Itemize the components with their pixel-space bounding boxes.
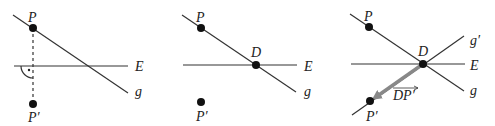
point-p-prime	[366, 97, 374, 105]
point-p	[29, 24, 37, 32]
label-g: g	[470, 83, 477, 98]
right-angle-arc	[21, 66, 33, 78]
label-p: P	[363, 9, 373, 24]
label-e: E	[469, 58, 479, 73]
point-p	[197, 24, 205, 32]
point-d	[419, 60, 427, 68]
right-angle-dot	[28, 69, 30, 71]
label-e: E	[303, 59, 313, 74]
point-d	[252, 61, 260, 69]
label-vector-dp-prime: DP′	[392, 88, 416, 103]
label-g-prime: g′	[470, 33, 481, 48]
panel-1: P P′ E g	[13, 10, 144, 125]
label-d: D	[417, 44, 428, 59]
point-p	[365, 23, 373, 31]
point-p-prime	[29, 100, 37, 108]
label-e: E	[134, 59, 144, 74]
panel-3: P D P′ g′ E g DP′	[350, 9, 481, 124]
label-p-prime: P′	[195, 109, 209, 124]
label-p: P	[195, 10, 205, 25]
point-p-prime	[197, 98, 205, 106]
label-p-prime: P′	[365, 109, 379, 124]
label-g: g	[304, 84, 311, 99]
panel-2: P D P′ E g	[182, 10, 313, 124]
label-d: D	[250, 45, 261, 60]
reflection-diagram: P P′ E g P D P′ E g P D P′ g′ E g DP′	[0, 0, 495, 126]
label-p-prime: P′	[27, 110, 41, 125]
label-p: P	[27, 10, 37, 25]
label-g: g	[135, 84, 142, 99]
